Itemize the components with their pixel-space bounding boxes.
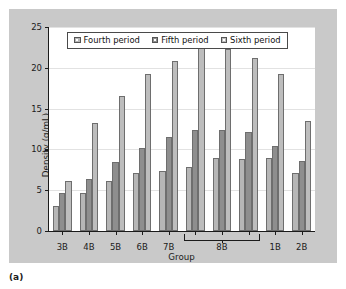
bar bbox=[119, 96, 125, 231]
x-axis-tick-label: 2B bbox=[296, 242, 307, 252]
y-axis-tick bbox=[45, 149, 49, 150]
x-axis-label: Group bbox=[48, 252, 315, 262]
x-axis-tick bbox=[116, 231, 117, 235]
x-axis-tick bbox=[302, 231, 303, 235]
x-axis-tick bbox=[89, 231, 90, 235]
x-axis-tick bbox=[142, 231, 143, 235]
x-axis-tick-label: 7B bbox=[163, 242, 174, 252]
bar-cluster bbox=[213, 27, 232, 231]
x-axis-tick bbox=[62, 231, 63, 235]
y-axis-tick bbox=[45, 27, 49, 28]
y-axis-tick-label: 5 bbox=[37, 186, 42, 195]
bar-cluster bbox=[106, 27, 125, 231]
group-brace-nub bbox=[222, 240, 223, 243]
y-axis-tick-label: 0 bbox=[37, 227, 42, 236]
x-axis-tick-label: 6B bbox=[136, 242, 147, 252]
x-axis-tick-label: 8B bbox=[216, 242, 227, 252]
legend-swatch-fifth-period-icon bbox=[152, 37, 159, 44]
bar-cluster bbox=[266, 27, 285, 231]
y-axis-tick-label: 10 bbox=[31, 145, 42, 154]
group-brace bbox=[184, 234, 260, 241]
bar bbox=[92, 123, 98, 231]
plot-area: 05101520253B4B5B6B7B8B1B2B bbox=[49, 27, 315, 231]
figure-container: Density (g/mL) Group 05101520253B4B5B6B7… bbox=[0, 0, 346, 289]
bar-cluster bbox=[292, 27, 311, 231]
x-axis-tick bbox=[169, 231, 170, 235]
y-axis-tick bbox=[45, 109, 49, 110]
bar bbox=[172, 61, 178, 231]
legend-entry: Fifth period bbox=[152, 35, 209, 45]
legend-swatch-fourth-period-icon bbox=[74, 37, 81, 44]
x-axis-tick-label: 4B bbox=[83, 242, 94, 252]
y-axis-tick-label: 15 bbox=[31, 104, 42, 113]
bar-cluster bbox=[159, 27, 178, 231]
x-axis-tick-label: 3B bbox=[57, 242, 68, 252]
x-axis-tick-label: 5B bbox=[110, 242, 121, 252]
bar-cluster bbox=[239, 27, 258, 231]
bar bbox=[252, 58, 258, 231]
bar-cluster bbox=[133, 27, 152, 231]
bar bbox=[65, 181, 71, 231]
legend-label: Sixth period bbox=[230, 35, 281, 45]
legend-label: Fifth period bbox=[161, 35, 208, 45]
bar-cluster bbox=[186, 27, 205, 231]
bar bbox=[278, 74, 284, 231]
bar bbox=[198, 48, 204, 231]
y-axis-tick bbox=[45, 68, 49, 69]
legend-swatch-sixth-period-icon bbox=[221, 37, 228, 44]
plot-frame: 05101520253B4B5B6B7B8B1B2B bbox=[48, 27, 315, 232]
bar-cluster bbox=[53, 27, 72, 231]
y-axis-tick-label: 25 bbox=[31, 23, 42, 32]
y-axis-tick bbox=[45, 190, 49, 191]
y-axis-tick-label: 20 bbox=[31, 64, 42, 73]
x-axis-tick-label: 1B bbox=[269, 242, 280, 252]
x-axis-tick bbox=[275, 231, 276, 235]
bar bbox=[305, 121, 311, 231]
legend-entry: Fourth period bbox=[74, 35, 140, 45]
legend-label: Fourth period bbox=[84, 35, 140, 45]
y-axis-tick bbox=[45, 231, 49, 232]
bar bbox=[225, 49, 231, 231]
bar bbox=[145, 74, 151, 231]
chart-legend: Fourth period Fifth period Sixth period bbox=[67, 32, 288, 49]
bar-cluster bbox=[80, 27, 99, 231]
legend-entry: Sixth period bbox=[221, 35, 281, 45]
figure-caption: (a) bbox=[9, 272, 23, 282]
